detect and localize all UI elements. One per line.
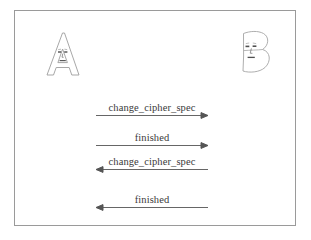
arrow-right-2-icon [96,141,208,150]
letter-a-icon [42,31,84,79]
arrow-right-1-icon [96,111,208,120]
party-b-glyph: B [234,28,276,76]
arrow-left-4-icon [96,203,208,212]
message-row-4: finished [96,188,208,212]
party-a-glyph: A [42,31,84,79]
letter-b-icon [234,28,276,76]
arrow-left-3-icon [96,165,208,174]
message-row-2: finished [96,126,208,150]
message-row-1: change_cipher_spec [96,96,208,120]
message-row-3: change_cipher_spec [96,150,208,174]
protocol-diagram: A B change_cipher_spec finished [0,0,311,240]
